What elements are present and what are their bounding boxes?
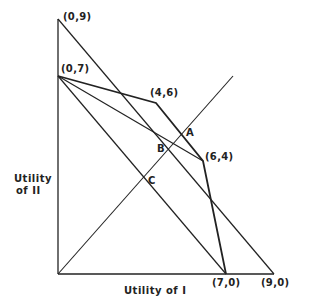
label-point-0-7: (0,7) xyxy=(61,63,89,74)
label-point-7-0: (7,0) xyxy=(212,277,240,288)
label-intersection-b: B xyxy=(157,143,165,154)
y-axis-label-line1: Utility xyxy=(14,173,52,185)
label-point-6-4: (6,4) xyxy=(205,151,233,162)
line-07-70 xyxy=(58,76,226,274)
diagram-canvas xyxy=(0,0,309,305)
line-07-64 xyxy=(58,76,203,161)
label-point-9-0: (9,0) xyxy=(261,277,289,288)
x-axis-label: Utility of I xyxy=(124,285,186,297)
y-axis-label: Utility of II xyxy=(14,173,52,197)
line-09-90 xyxy=(58,19,274,274)
label-intersection-a: A xyxy=(186,127,194,138)
label-point-0-9: (0,9) xyxy=(63,11,91,22)
y-axis-label-line2: of II xyxy=(14,185,52,197)
label-point-4-6: (4,6) xyxy=(150,87,178,98)
label-intersection-c: C xyxy=(148,175,156,186)
